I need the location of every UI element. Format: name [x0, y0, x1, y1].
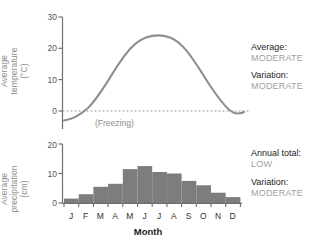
precipitation-y-axis-label-line2: precipitation — [9, 151, 19, 227]
precipitation-bar-sep — [182, 181, 197, 203]
precipitation-annual-total-note: Annual total: LOW — [251, 148, 301, 170]
precipitation-variation-note: Variation: MODERATE — [251, 177, 303, 199]
precipitation-variation-value: MODERATE — [251, 188, 303, 199]
precipitation-annual-total-value: LOW — [251, 159, 301, 170]
precipitation-bar-mar — [93, 187, 108, 203]
temperature-y-axis-label-line2: temperature — [9, 33, 19, 109]
temperature-ytick-20: 20 — [40, 43, 57, 53]
precipitation-bar-dec — [226, 197, 241, 203]
precipitation-bar-jul — [152, 172, 167, 203]
precipitation-plot-area — [58, 138, 258, 218]
month-label-apr: A — [109, 211, 121, 221]
precipitation-variation-label: Variation: — [251, 177, 303, 188]
temperature-plot-area — [58, 10, 258, 140]
month-label-jul: J — [153, 211, 165, 221]
month-label-may: M — [124, 211, 136, 221]
temperature-average-value: MODERATE — [251, 53, 303, 64]
precipitation-annual-total-label: Annual total: — [251, 148, 301, 159]
precipitation-bar-jun — [138, 166, 153, 203]
precipitation-ytick-20: 20 — [40, 140, 57, 150]
month-label-jan: J — [65, 211, 77, 221]
precipitation-y-axis-label-line3: (cm) — [19, 151, 29, 227]
temperature-variation-label: Variation: — [251, 70, 303, 81]
month-label-dec: D — [227, 211, 239, 221]
precipitation-bar-apr — [108, 184, 123, 203]
precipitation-y-axis-label: Average precipitation (cm) — [0, 151, 29, 227]
x-axis-title: Month — [118, 226, 178, 237]
temperature-ytick-10: 10 — [40, 75, 57, 85]
month-label-nov: N — [212, 211, 224, 221]
temperature-y-axis-label-line1: Average — [0, 33, 9, 109]
precipitation-ytick-10: 10 — [40, 169, 57, 179]
precipitation-y-axis-label-line1: Average — [0, 151, 9, 227]
temperature-curve — [64, 35, 244, 120]
temperature-ytick-0: 0 — [40, 106, 57, 116]
temperature-variation-value: MODERATE — [251, 81, 303, 92]
temperature-y-axis-label-line3: (°C) — [19, 33, 29, 109]
climate-figure: Average temperature (°C) 30 20 10 0 (Fre… — [0, 0, 323, 244]
temperature-y-axis-label: Average temperature (°C) — [0, 33, 29, 109]
precipitation-bar-oct — [196, 185, 211, 203]
freezing-annotation: (Freezing) — [95, 118, 134, 128]
temperature-average-note: Average: MODERATE — [251, 42, 303, 64]
temperature-ytick-30: 30 — [40, 12, 57, 22]
month-label-mar: M — [94, 211, 106, 221]
month-label-feb: F — [80, 211, 92, 221]
precipitation-bar-aug — [167, 174, 182, 204]
precipitation-bar-feb — [79, 194, 94, 203]
precipitation-ytick-0: 0 — [40, 198, 57, 208]
month-label-oct: O — [197, 211, 209, 221]
month-label-aug: A — [168, 211, 180, 221]
precipitation-bar-may — [123, 169, 138, 203]
precipitation-bar-nov — [211, 193, 226, 203]
temperature-variation-note: Variation: MODERATE — [251, 70, 303, 92]
month-label-sep: S — [183, 211, 195, 221]
precipitation-bar-jan — [64, 199, 79, 203]
temperature-average-label: Average: — [251, 42, 303, 53]
month-label-jun: J — [139, 211, 151, 221]
precipitation-bars — [64, 166, 240, 203]
